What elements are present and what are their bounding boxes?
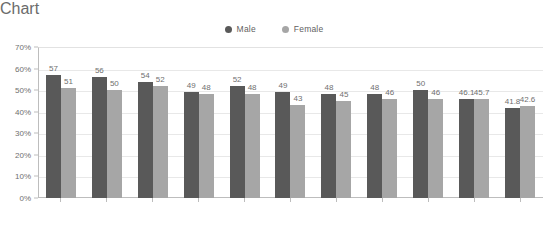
bar-value-label: 49 [279, 81, 288, 90]
x-axis-category-label: 1997 [190, 206, 208, 207]
bar-male[interactable]: 49 [184, 92, 199, 198]
bar-female[interactable]: 46 [428, 99, 443, 198]
chart-legend: MaleFemale [0, 24, 548, 34]
bar-male[interactable]: 56 [92, 77, 107, 198]
x-axis-category: 1991 [38, 198, 84, 207]
bar-female[interactable]: 51 [61, 88, 76, 198]
bar-female[interactable]: 45.7 [474, 99, 489, 198]
x-axis-category-label: 2007 [419, 206, 437, 207]
bar-group: 4948 [176, 47, 222, 198]
x-axis-category: 1997 [176, 198, 222, 207]
bar-value-label: 52 [156, 75, 165, 84]
bar-value-label: 50 [416, 79, 425, 88]
legend-dot-icon [282, 26, 289, 33]
x-axis-tick-mark [520, 198, 521, 202]
bar-group: 5650 [84, 47, 130, 198]
bar-female[interactable]: 48 [245, 94, 260, 198]
x-axis-tick-mark [382, 198, 383, 202]
bar-value-label: 46.1 [459, 88, 475, 97]
x-axis-tick-mark [474, 198, 475, 202]
bar-male[interactable]: 41.8 [505, 108, 520, 198]
bar-group: 4846 [359, 47, 405, 198]
bar-group: 5046 [405, 47, 451, 198]
x-axis-category-label: 1999 [236, 206, 254, 207]
x-axis-category: 2003 [313, 198, 359, 207]
bar-group: 5248 [222, 47, 268, 198]
bar-male[interactable]: 50 [413, 90, 428, 198]
y-axis-tick: 40% [15, 107, 38, 116]
x-axis: 1991199319951997199920012003200520072009… [38, 198, 543, 207]
bar-female[interactable]: 45 [336, 101, 351, 198]
x-axis-category-label: 1991 [52, 206, 70, 207]
x-axis-category: 2001 [268, 198, 314, 207]
bar-group: 41.842.6 [497, 47, 543, 198]
x-axis-tick-mark [60, 198, 61, 202]
x-axis-tick-mark [244, 198, 245, 202]
x-axis-category-label: 2001 [282, 206, 300, 207]
bar-female[interactable]: 52 [153, 86, 168, 198]
bar-male[interactable]: 48 [367, 94, 382, 198]
bar-value-label: 46 [385, 88, 394, 97]
bar-male[interactable]: 46.1 [459, 99, 474, 198]
bar-female[interactable]: 50 [107, 90, 122, 198]
x-axis-category: 1999 [222, 198, 268, 207]
bar-female[interactable]: 43 [290, 105, 305, 198]
legend-item-label: Female [294, 24, 324, 34]
x-axis-tick-mark [198, 198, 199, 202]
bar-group: 5452 [130, 47, 176, 198]
legend-dot-icon [225, 26, 232, 33]
bar-value-label: 57 [49, 64, 58, 73]
legend-item-female[interactable]: Female [282, 24, 324, 34]
x-axis-category: 2010 [497, 198, 543, 207]
y-axis-tick-label: 40% [15, 107, 34, 116]
x-axis-category: 2009 [451, 198, 497, 207]
bar-value-label: 56 [95, 66, 104, 75]
bar-pair: 5046 [413, 90, 443, 198]
bar-value-label: 48 [202, 83, 211, 92]
legend-item-male[interactable]: Male [225, 24, 256, 34]
y-axis-tick-label: 30% [15, 129, 34, 138]
bar-male[interactable]: 48 [321, 94, 336, 198]
y-axis-tick: 10% [15, 172, 38, 181]
bar-value-label: 46 [431, 88, 440, 97]
x-axis-tick-mark [428, 198, 429, 202]
bar-male[interactable]: 54 [138, 82, 153, 198]
bar-pair: 41.842.6 [505, 106, 535, 198]
y-axis: 0%10%20%30%40%50%60%70% [0, 47, 38, 198]
bar-value-label: 43 [294, 94, 303, 103]
bar-male[interactable]: 52 [230, 86, 245, 198]
bar-male[interactable]: 57 [46, 75, 61, 198]
bar-group: 4845 [313, 47, 359, 198]
bar-group: 5751 [38, 47, 84, 198]
bar-group: 46.145.7 [451, 47, 497, 198]
bar-pair: 5248 [230, 86, 260, 198]
y-axis-tick: 70% [15, 43, 38, 52]
y-axis-tick-label: 10% [15, 172, 34, 181]
bar-male[interactable]: 49 [275, 92, 290, 198]
x-axis-category-label: 2003 [327, 206, 345, 207]
bar-pair: 46.145.7 [459, 99, 489, 198]
bar-value-label: 52 [233, 75, 242, 84]
y-axis-tick: 30% [15, 129, 38, 138]
x-axis-category: 2005 [359, 198, 405, 207]
bar-pair: 4845 [321, 94, 351, 198]
bar-female[interactable]: 46 [382, 99, 397, 198]
bar-pair: 5650 [92, 77, 122, 198]
x-axis-tick-mark [152, 198, 153, 202]
x-axis-category: 1995 [130, 198, 176, 207]
x-axis-tick-mark [106, 198, 107, 202]
bar-pair: 5751 [46, 75, 76, 198]
x-axis-tick-mark [336, 198, 337, 202]
bar-pair: 4943 [275, 92, 305, 198]
bar-pair: 4948 [184, 92, 214, 198]
y-axis-tick-label: 60% [15, 64, 34, 73]
x-axis-category: 2007 [405, 198, 451, 207]
bar-pair: 4846 [367, 94, 397, 198]
y-axis-tick: 20% [15, 150, 38, 159]
bar-value-label: 45.7 [474, 88, 490, 97]
y-axis-tick-label: 50% [15, 86, 34, 95]
bar-pair: 5452 [138, 82, 168, 198]
bar-female[interactable]: 42.6 [520, 106, 535, 198]
bar-female[interactable]: 48 [199, 94, 214, 198]
legend-item-label: Male [237, 24, 256, 34]
